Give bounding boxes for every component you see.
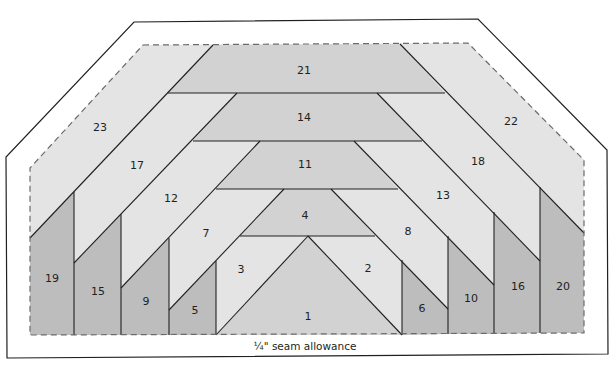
label-19: 19: [45, 272, 59, 285]
label-15: 15: [91, 285, 105, 298]
label-4: 4: [302, 209, 309, 222]
label-23: 23: [93, 121, 107, 134]
label-13: 13: [436, 189, 450, 202]
label-1: 1: [305, 310, 312, 323]
label-20: 20: [556, 280, 570, 293]
label-11: 11: [298, 158, 312, 171]
label-8: 8: [405, 225, 412, 238]
label-16: 16: [511, 280, 525, 293]
label-17: 17: [130, 159, 144, 172]
label-21: 21: [297, 64, 311, 77]
label-7: 7: [203, 227, 210, 240]
label-10: 10: [464, 292, 478, 305]
seam-allowance-caption: ¼" seam allowance: [254, 340, 357, 352]
quilt-diagram: 1 2 3 4 5 6 7 8 9 10 11 12 13 14 15 16 1…: [0, 0, 616, 369]
quilt-block-svg: 1 2 3 4 5 6 7 8 9 10 11 12 13 14 15 16 1…: [0, 0, 616, 369]
label-18: 18: [471, 155, 485, 168]
label-5: 5: [192, 304, 199, 317]
label-6: 6: [419, 302, 426, 315]
label-3: 3: [238, 263, 245, 276]
label-12: 12: [164, 192, 178, 205]
label-22: 22: [504, 115, 518, 128]
label-14: 14: [297, 111, 311, 124]
label-9: 9: [143, 295, 150, 308]
label-2: 2: [365, 262, 372, 275]
